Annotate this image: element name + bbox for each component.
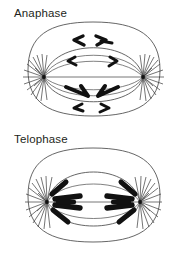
chromosome (107, 205, 132, 208)
chromosome (101, 41, 112, 43)
spindle-fiber (44, 55, 143, 77)
chromosome (100, 104, 109, 112)
phase-panel-telophase: Telophase (0, 126, 187, 252)
phase-label-anaphase: Anaphase (14, 7, 67, 19)
chromosome (107, 196, 132, 199)
chromosome (74, 104, 83, 111)
spindle-fiber (44, 77, 143, 90)
phase-label-telophase: Telophase (14, 133, 68, 145)
chromosome (53, 210, 68, 222)
mitosis-figure: Anaphase (0, 0, 187, 253)
right-centrosome (138, 200, 142, 204)
chromosome (119, 210, 134, 222)
chromosome (55, 205, 80, 208)
left-centrosome (45, 200, 49, 204)
left-centrosome (42, 75, 46, 79)
chromosome (74, 36, 84, 45)
chromosome (55, 196, 80, 199)
phase-panel-anaphase: Anaphase (0, 0, 187, 126)
spindle-fiber (44, 61, 143, 77)
right-centrosome (141, 75, 145, 79)
spindle-fiber (44, 77, 143, 96)
chromosome (109, 57, 117, 66)
